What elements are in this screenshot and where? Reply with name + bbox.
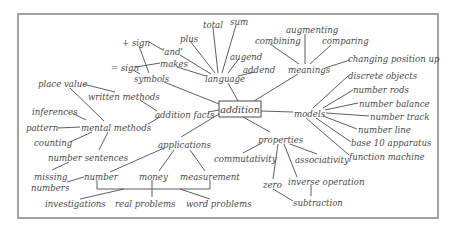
edge-zero-subtraction — [273, 189, 293, 201]
node-measurement: measurement — [180, 172, 240, 182]
node-addend: addend — [243, 65, 276, 75]
edge-models-base10 — [316, 118, 351, 142]
node-missing-numbers-line2: numbers — [31, 183, 70, 193]
edge-plussign-and — [149, 42, 163, 50]
edge-plussign-symbols — [139, 46, 149, 73]
node-investigations: investigations — [45, 199, 106, 209]
edge-mental-sentences — [99, 132, 108, 150]
node-sum: sum — [230, 17, 248, 27]
edge-models-track — [326, 113, 369, 116]
node-base-10-apparatus: base 10 apparatus — [351, 138, 432, 148]
node-number-line: number line — [358, 125, 411, 135]
node-function-machine: function machine — [348, 152, 425, 162]
node-money: money — [139, 172, 168, 182]
node-number-rods: number rods — [353, 85, 409, 95]
node-properties: properties — [258, 135, 304, 145]
edge-language-total — [213, 28, 218, 73]
node-plus-sign: + sign — [122, 38, 150, 48]
node-addition-facts: addition facts — [155, 110, 215, 120]
edge-applications-measurement — [190, 150, 205, 171]
node-number-balance: number balance — [359, 99, 430, 109]
edge-meanings-comparing — [310, 45, 331, 64]
edge-sentences-missing — [52, 162, 69, 170]
node-word-problems: word problems — [186, 199, 252, 209]
edge-mental-pattern — [58, 127, 80, 128]
node-pattern: pattern — [26, 123, 58, 133]
edge-addition-properties — [243, 117, 270, 132]
node-language: language — [205, 74, 245, 84]
node-inverse-operation: inverse operation — [288, 177, 364, 187]
node-applications: applications — [158, 140, 211, 150]
node-makes: makes — [160, 59, 189, 69]
edge-mental-counting — [70, 132, 92, 142]
node-symbols: symbols — [134, 74, 170, 84]
node-changing-position-up: changing position up — [348, 54, 440, 64]
edge-applications-money — [159, 150, 174, 171]
node-augend: augend — [230, 52, 263, 62]
node-equals-sign: = sign — [111, 63, 139, 73]
edge-properties-associativity — [290, 144, 317, 154]
node-meanings: meanings — [288, 65, 331, 75]
node-comparing: comparing — [322, 36, 369, 46]
node-mental-methods: mental methods — [81, 123, 152, 133]
node-and: 'and' — [162, 47, 183, 57]
node-plus: plus — [180, 34, 199, 44]
edge-addition-symbols — [164, 82, 219, 104]
node-discrete-objects: discrete objects — [348, 71, 418, 81]
node-augmenting: augmenting — [286, 25, 339, 35]
node-inferences: inferences — [32, 107, 78, 117]
node-number: number — [84, 172, 119, 182]
node-place-value: place value — [38, 79, 87, 89]
node-zero: zero — [262, 180, 282, 190]
node-models: models — [294, 109, 326, 119]
node-written-methods: written methods — [88, 92, 160, 102]
node-subtraction: subtraction — [293, 198, 343, 208]
node-number-track: number track — [370, 112, 429, 122]
edge-bracket-word — [180, 189, 210, 199]
edge-placevalue-written — [83, 84, 115, 92]
node-missing-numbers-line1: missing — [34, 172, 68, 182]
node-number-sentences: number sentences — [48, 153, 129, 163]
edge-bracket-investigations — [80, 189, 124, 199]
edge-meanings-combining — [270, 44, 299, 64]
center-node-label: addition — [220, 104, 260, 115]
edge-missing-number — [67, 177, 84, 182]
node-commutativity: commutativity — [214, 154, 277, 164]
edge-models-line — [323, 116, 357, 129]
node-total: total — [203, 20, 223, 30]
edge-addition-language — [228, 83, 238, 101]
node-real-problems: real problems — [115, 199, 176, 209]
node-counting: counting — [34, 138, 73, 148]
center-node-addition: addition — [219, 101, 261, 117]
edge-language-plus — [190, 41, 215, 73]
node-associativity: associativity — [295, 155, 349, 165]
node-combining: combining — [255, 36, 301, 46]
concept-map: addition total sum plus 'and' augend add… — [0, 0, 450, 232]
edge-addition-models — [261, 111, 293, 112]
edge-addition-meanings — [254, 74, 298, 101]
edge-equalssign-makes — [136, 63, 160, 67]
